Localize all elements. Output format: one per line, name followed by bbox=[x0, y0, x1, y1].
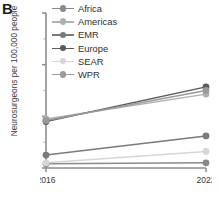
legend-item[interactable]: Africa bbox=[52, 2, 162, 15]
legend-dot bbox=[60, 71, 66, 77]
legend-label: Europe bbox=[74, 42, 108, 55]
legend-label: Americas bbox=[74, 15, 117, 28]
legend-label: WPR bbox=[74, 68, 100, 81]
legend-item[interactable]: SEAR bbox=[52, 55, 162, 68]
legend-item[interactable]: EMR bbox=[52, 28, 162, 41]
legend-marker-icon bbox=[52, 42, 74, 55]
legend-item[interactable]: Europe bbox=[52, 42, 162, 55]
data-point[interactable] bbox=[203, 148, 210, 155]
legend-marker-icon bbox=[52, 2, 74, 15]
series-line bbox=[46, 94, 206, 119]
legend-label: EMR bbox=[74, 28, 99, 41]
chart-panel: B Neurosurgeons per 100,000 people 01232… bbox=[0, 0, 219, 207]
legend-item[interactable]: Americas bbox=[52, 15, 162, 28]
data-point[interactable] bbox=[203, 159, 210, 166]
legend-dot bbox=[60, 18, 66, 24]
legend-dot bbox=[60, 32, 66, 38]
data-point[interactable] bbox=[43, 159, 50, 166]
legend-marker-icon bbox=[52, 28, 74, 41]
legend-item[interactable]: WPR bbox=[52, 68, 162, 81]
data-point[interactable] bbox=[203, 87, 210, 94]
legend-marker-icon bbox=[52, 55, 74, 68]
series-layer bbox=[43, 83, 210, 167]
legend-dot bbox=[60, 5, 66, 11]
legend-dot bbox=[60, 58, 66, 64]
legend-marker-icon bbox=[52, 15, 74, 28]
legend-dot bbox=[60, 45, 66, 51]
series-line bbox=[46, 91, 206, 121]
legend-label: SEAR bbox=[74, 55, 104, 68]
legend-label: Africa bbox=[74, 2, 102, 15]
legend-marker-icon bbox=[52, 68, 74, 81]
series-line bbox=[46, 151, 206, 162]
x-tick-label: 2022 bbox=[196, 175, 212, 185]
series-line bbox=[46, 163, 206, 164]
series-line bbox=[46, 136, 206, 155]
data-point[interactable] bbox=[43, 152, 50, 159]
data-point[interactable] bbox=[203, 133, 210, 140]
data-point[interactable] bbox=[43, 117, 50, 124]
legend: AfricaAmericasEMREuropeSEARWPR bbox=[52, 2, 162, 81]
y-axis-title: Neurosurgeons per 100,000 people bbox=[9, 1, 19, 141]
x-tick-label: 2016 bbox=[40, 175, 56, 185]
